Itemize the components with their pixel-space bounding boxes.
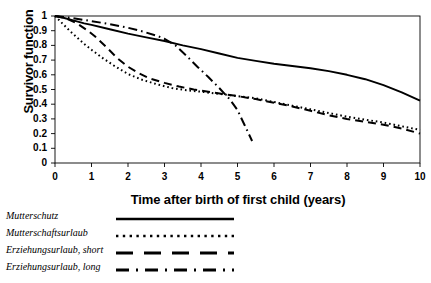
y-tick-label: 0.5 — [21, 84, 47, 95]
x-tick-label: 0 — [45, 171, 65, 182]
x-tick-label: 4 — [191, 171, 211, 182]
x-tick-label: 1 — [82, 171, 102, 182]
y-tick-label: 0.8 — [21, 39, 47, 50]
legend-line-dashed — [116, 251, 236, 255]
series-line — [55, 16, 420, 134]
y-tick-label: 0.7 — [21, 54, 47, 65]
series-line — [55, 16, 252, 141]
x-tick-label: 10 — [410, 171, 430, 182]
y-tick-label: 0.3 — [21, 113, 47, 124]
x-tick-label: 7 — [301, 171, 321, 182]
legend-item-erziehungsurlaub-long: Erziehungsurlaub, long — [6, 261, 306, 278]
y-tick-label: 0 — [21, 157, 47, 168]
legend-line-solid — [116, 217, 236, 221]
y-tick-label: 1 — [21, 10, 47, 21]
legend-item-erziehungsurlaub-short: Erziehungsurlaub, short — [6, 244, 306, 261]
series-line — [55, 16, 420, 130]
chart-legend: Mutterschutz Mutterschaftsurlaub Erziehu… — [6, 210, 306, 278]
legend-label: Erziehungsurlaub, long — [6, 261, 100, 272]
x-tick-label: 2 — [118, 171, 138, 182]
x-tick-label: 5 — [228, 171, 248, 182]
legend-label: Mutterschaftsurlaub — [6, 227, 88, 238]
y-tick-label: 0.6 — [21, 69, 47, 80]
survivor-function-chart: Survivor function Time after birth of fi… — [0, 0, 431, 283]
x-tick-label: 9 — [374, 171, 394, 182]
series-line — [55, 16, 420, 101]
y-tick-label: 0.1 — [21, 142, 47, 153]
y-tick-label: 0.4 — [21, 98, 47, 109]
y-tick-label: 0.2 — [21, 128, 47, 139]
legend-line-dashdot — [116, 268, 236, 272]
legend-item-mutterschutz: Mutterschutz — [6, 210, 306, 227]
x-tick-label: 3 — [155, 171, 175, 182]
x-axis-title: Time after birth of first child (years) — [55, 192, 421, 207]
legend-item-mutterschaftsurlaub: Mutterschaftsurlaub — [6, 227, 306, 244]
legend-label: Mutterschutz — [6, 210, 58, 221]
plot-area — [0, 0, 431, 200]
legend-line-dotted — [116, 234, 236, 238]
legend-label: Erziehungsurlaub, short — [6, 244, 103, 255]
y-tick-label: 0.9 — [21, 25, 47, 36]
x-tick-label: 8 — [337, 171, 357, 182]
x-tick-label: 6 — [264, 171, 284, 182]
